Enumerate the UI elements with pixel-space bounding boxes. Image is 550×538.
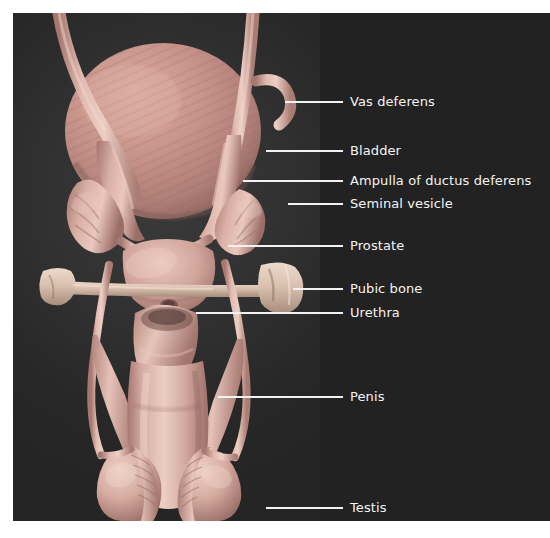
label-penis: Penis: [350, 389, 385, 404]
leader-line-seminal-vesicle: [288, 203, 343, 205]
leader-line-bladder: [266, 150, 343, 152]
leader-line-prostate: [228, 245, 343, 247]
leader-line-vas-deferens: [285, 101, 343, 103]
leader-line-ampulla-of-ductus-deferens: [243, 180, 343, 182]
leader-line-pubic-bone: [293, 288, 343, 290]
label-prostate: Prostate: [350, 238, 404, 253]
label-seminal-vesicle: Seminal vesicle: [350, 196, 453, 211]
anatomy-illustration: [13, 13, 550, 521]
anatomy-figure: Vas deferens Bladder Ampulla of ductus d…: [0, 0, 550, 538]
leader-line-testis: [266, 507, 343, 509]
label-testis: Testis: [350, 500, 387, 515]
label-ampulla-of-ductus-deferens: Ampulla of ductus deferens: [350, 173, 531, 188]
label-bladder: Bladder: [350, 143, 401, 158]
label-pubic-bone: Pubic bone: [350, 281, 422, 296]
label-vas-deferens: Vas deferens: [350, 94, 435, 109]
leader-line-penis: [218, 396, 343, 398]
leader-line-urethra: [196, 312, 343, 314]
label-urethra: Urethra: [350, 305, 400, 320]
illustration-panel: Vas deferens Bladder Ampulla of ductus d…: [13, 13, 550, 521]
